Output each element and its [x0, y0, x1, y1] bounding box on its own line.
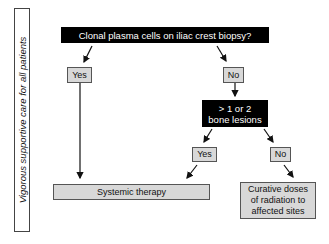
arrow-to-no2	[264, 129, 273, 142]
arrow-to-yes1	[84, 46, 92, 62]
flow-arrows	[0, 0, 329, 244]
arrow-yes2-to-systemic	[187, 165, 197, 178]
arrow-to-no1	[217, 46, 226, 61]
arrow-to-yes2	[204, 129, 212, 142]
arrow-no2-to-curative	[284, 165, 293, 177]
